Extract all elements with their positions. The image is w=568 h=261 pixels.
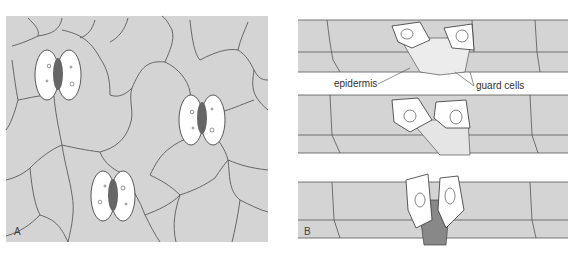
epidermis-label: epidermis: [334, 78, 377, 89]
panel-b-cross-sections: [298, 20, 568, 245]
section-intermediate: [298, 95, 568, 155]
figure-canvas: [0, 0, 568, 261]
panel-a-epidermis-surface: [6, 16, 268, 242]
panel-a-letter: A: [14, 226, 21, 237]
guard-cells-label: guard cells: [476, 80, 524, 91]
section-open: [298, 20, 568, 75]
panel-b-letter: B: [304, 226, 311, 237]
section-closed: [298, 174, 568, 245]
